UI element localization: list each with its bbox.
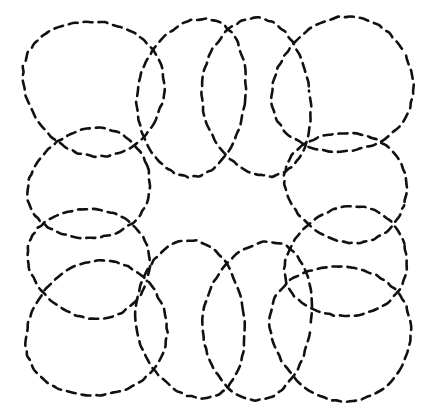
rosette-canvas <box>0 0 433 416</box>
rosette-figure <box>0 0 433 416</box>
figure-background <box>0 0 433 416</box>
